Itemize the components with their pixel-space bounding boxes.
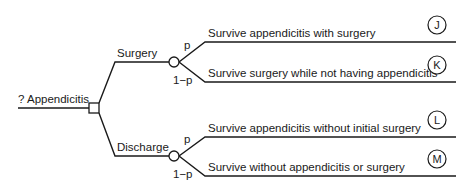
decision-tree: ? Appendicitis Surgery p 1−p Survive app… [0,0,464,188]
prob-label-1-minus-p: 1−p [173,74,193,86]
chance-node-circle-surgery [169,57,179,67]
outcome-text-k: Survive surgery while not having appendi… [208,67,438,79]
outcome-marker-j: J [434,19,440,31]
branch-line-surgery [99,62,169,103]
decision-node-square [89,103,99,113]
outcome-line-j [179,42,456,62]
outcome-text-l: Survive appendicitis without initial sur… [208,122,421,134]
prob-label-1-minus-p: 1−p [173,168,193,180]
outcome-line-l [179,137,456,156]
branch-label-surgery: Surgery [117,47,158,59]
root-label: ? Appendicitis [18,93,89,105]
chance-node-circle-discharge [169,151,179,161]
outcome-marker-k: K [433,59,441,71]
outcome-text-j: Survive appendicitis with surgery [208,27,376,39]
outcome-marker-l: L [434,114,440,126]
outcome-text-m: Survive without appendicitis or surgery [208,161,405,173]
branch-label-discharge: Discharge [117,141,169,153]
prob-label-p: p [184,133,190,145]
prob-label-p: p [184,39,190,51]
outcome-marker-m: M [432,153,441,165]
